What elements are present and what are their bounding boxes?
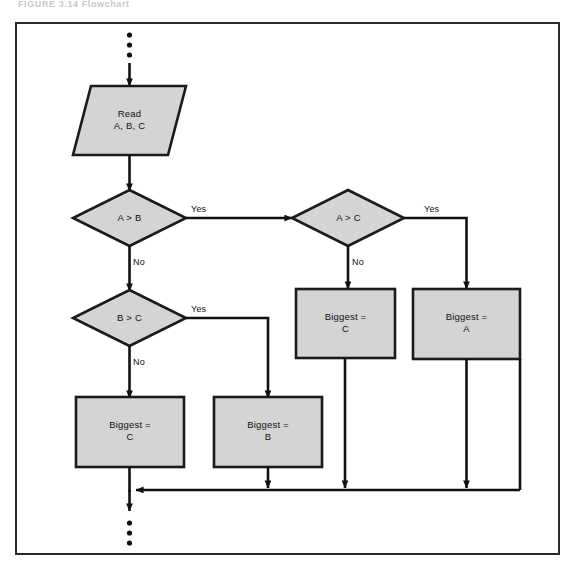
node-biggest-c-mid-shape xyxy=(296,289,395,358)
edge-a-gt-c-yes xyxy=(404,218,467,289)
node-biggest-a-shape xyxy=(413,289,520,359)
node-biggest-c-low-shape xyxy=(76,397,184,467)
edge-b-gt-c-yes xyxy=(186,318,268,398)
edge-label-a-gt-c-no: No xyxy=(352,257,364,267)
edge-label-a-gt-c-yes: Yes xyxy=(424,204,439,214)
edge-label-a-gt-b-yes: Yes xyxy=(191,204,206,214)
exit-ellipsis-icon xyxy=(127,520,132,545)
node-a-gt-c-shape xyxy=(292,190,404,246)
flowchart-canvas xyxy=(0,0,577,573)
edge-label-b-gt-c-no: No xyxy=(133,357,145,367)
flowchart-page: FIGURE 3.14 Flowchart xyxy=(0,0,577,573)
node-a-gt-b-shape xyxy=(73,190,186,246)
edge-label-a-gt-b-no: No xyxy=(133,257,145,267)
node-read-shape xyxy=(73,86,186,155)
edge-label-b-gt-c-yes: Yes xyxy=(191,304,206,314)
node-biggest-b-shape xyxy=(214,397,322,467)
entry-ellipsis-icon xyxy=(127,32,132,57)
node-b-gt-c-shape xyxy=(73,290,186,346)
